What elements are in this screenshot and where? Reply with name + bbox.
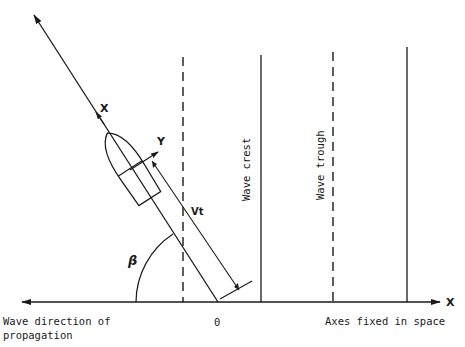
vt-dimension xyxy=(152,161,252,299)
ship-x-axis xyxy=(34,15,218,302)
origin-label: 0 xyxy=(214,316,220,328)
diagram-canvas xyxy=(0,0,465,347)
vt-label: Vt xyxy=(191,206,204,217)
ship-hull xyxy=(95,125,161,206)
wave-direction-label-1: Wave direction of xyxy=(3,315,110,327)
wave-crest-label: Wave crest xyxy=(240,138,252,201)
axes-fixed-label: Axes fixed in space xyxy=(325,315,445,327)
beta-label: β xyxy=(128,253,137,268)
wave-direction-label-2: propagation xyxy=(3,329,73,341)
ship-y-label: Y xyxy=(157,135,165,148)
ship-y-axis xyxy=(130,152,158,170)
wave-trough-label: Wave trough xyxy=(314,130,326,200)
ship-x-label: X xyxy=(100,102,108,115)
beta-angle-arc xyxy=(136,234,173,302)
space-x-label: X xyxy=(446,296,454,309)
